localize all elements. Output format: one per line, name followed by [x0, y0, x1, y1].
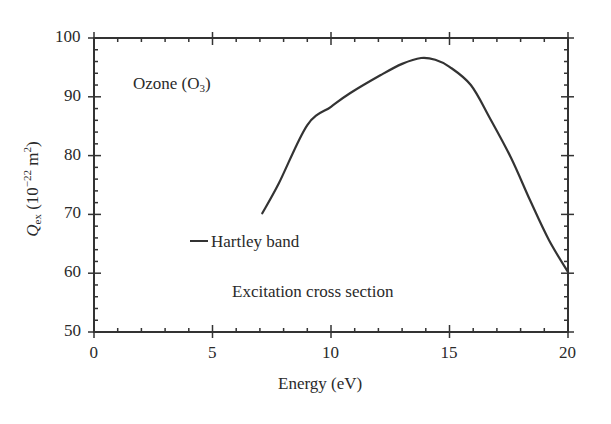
x-axis-label: Energy (eV) — [278, 374, 362, 394]
annotation-caption: Excitation cross section — [232, 282, 393, 302]
y-tick-label: 80 — [64, 145, 81, 165]
x-tick-label: 5 — [208, 343, 217, 363]
legend-entry-hartley-band: Hartley band — [190, 232, 299, 252]
annotation-molecule: Ozone (O3) — [133, 74, 211, 94]
series-line-hartley-band — [262, 58, 568, 272]
x-tick-label: 0 — [90, 343, 99, 363]
x-tick-label: 10 — [322, 343, 339, 363]
y-tick-label: 50 — [64, 321, 81, 341]
y-tick-label: 100 — [55, 27, 81, 47]
x-tick-label: 15 — [441, 343, 458, 363]
legend-line-icon — [190, 240, 208, 242]
y-axis-label: Qex (10−22 m2) — [21, 109, 43, 269]
x-tick-label: 20 — [559, 343, 576, 363]
y-tick-label: 90 — [64, 86, 81, 106]
y-tick-label: 70 — [64, 203, 81, 223]
y-tick-label: 60 — [64, 262, 81, 282]
